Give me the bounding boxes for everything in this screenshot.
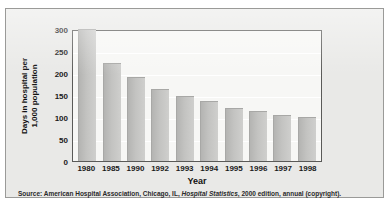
- bar-1992: [151, 89, 169, 161]
- source-italic-title: Hospital Statistics: [182, 190, 238, 197]
- bar-1985: [103, 63, 121, 161]
- x-tick-label: 1994: [197, 164, 222, 176]
- bar-1996: [249, 111, 267, 161]
- y-axis-title: Days in hospital per 1,000 population: [20, 30, 42, 162]
- bar-slot: [295, 31, 319, 161]
- bar-1994: [200, 101, 218, 161]
- y-tick-label: 250: [55, 48, 68, 57]
- x-tick-label: 1996: [246, 164, 271, 176]
- y-tick-label: 0: [64, 158, 68, 167]
- x-axis-title: Year: [72, 176, 322, 186]
- bar-1995: [225, 108, 243, 161]
- bar-1998: [298, 117, 316, 161]
- x-tick-label: 1992: [148, 164, 173, 176]
- x-tick-label: 1980: [74, 164, 99, 176]
- bar-series: [73, 31, 321, 161]
- bar-slot: [221, 31, 245, 161]
- source-prefix: Source: American Hospital Association, C…: [18, 190, 182, 197]
- y-axis-title-line-2: 1,000 population: [30, 30, 40, 162]
- bar-1993: [176, 96, 194, 161]
- x-tick-label: 1993: [172, 164, 197, 176]
- y-tick-label: 100: [55, 114, 68, 123]
- bar-slot: [197, 31, 221, 161]
- bar-slot: [148, 31, 172, 161]
- y-axis-ticks: 050100150200250300: [44, 30, 68, 162]
- bar-1997: [273, 115, 291, 161]
- bar-slot: [246, 31, 270, 161]
- y-tick-label: 150: [55, 92, 68, 101]
- y-tick-label: 50: [59, 136, 68, 145]
- bar-slot: [173, 31, 197, 161]
- bar-1980: [78, 29, 96, 161]
- source-suffix: , 2000 edition, annual (copyright).: [238, 190, 341, 197]
- x-axis-ticks: 1980198519901992199319941995199619971998: [72, 164, 322, 176]
- x-tick-label: 1997: [271, 164, 296, 176]
- y-tick-label: 200: [55, 70, 68, 79]
- chart-figure: Days in hospital per 1,000 population 05…: [0, 0, 391, 208]
- x-tick-label: 1990: [123, 164, 148, 176]
- bar-slot: [124, 31, 148, 161]
- bar-slot: [75, 31, 99, 161]
- x-tick-label: 1998: [295, 164, 320, 176]
- bar-slot: [99, 31, 123, 161]
- y-axis-title-line-1: Days in hospital per: [20, 30, 30, 162]
- bar-slot: [270, 31, 294, 161]
- y-tick-label: 300: [55, 26, 68, 35]
- chart-panel: Days in hospital per 1,000 population 05…: [5, 8, 384, 198]
- plot-area: [72, 30, 322, 162]
- x-tick-label: 1985: [99, 164, 124, 176]
- x-tick-label: 1995: [222, 164, 247, 176]
- bar-1990: [127, 77, 145, 161]
- source-note: Source: American Hospital Association, C…: [18, 190, 371, 197]
